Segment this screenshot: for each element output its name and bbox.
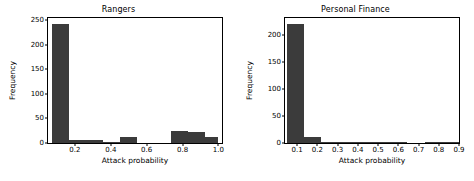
chart-panel-personal-finance: Personal Finance Frequency 050100150200 … (237, 0, 474, 181)
x-tick-mark (418, 143, 419, 146)
y-tick-mark (282, 35, 285, 36)
chart-panel-rangers: Rangers Frequency 050100150200250 0.20.4… (0, 0, 237, 181)
x-tick-mark (398, 143, 399, 146)
plot-axes: 050100150200 0.10.20.30.40.50.60.70.80.9 (284, 17, 460, 144)
y-tick-mark (45, 93, 48, 94)
y-axis-label: Frequency (243, 17, 255, 144)
x-tick-mark (297, 143, 298, 146)
histogram-bar (120, 137, 137, 143)
y-tick-mark (45, 69, 48, 70)
x-tick-mark (74, 143, 75, 146)
histogram-bar (171, 131, 188, 143)
y-tick-mark (45, 118, 48, 119)
x-tick-mark (357, 143, 358, 146)
y-axis-label-text: Frequency (245, 61, 254, 100)
histogram-bar (188, 132, 205, 143)
x-tick-mark (317, 143, 318, 146)
chart-title: Rangers (0, 5, 237, 15)
y-axis-label-text: Frequency (8, 61, 17, 100)
y-tick-mark (45, 20, 48, 21)
y-tick-mark (282, 116, 285, 117)
figure: Rangers Frequency 050100150200250 0.20.4… (0, 0, 474, 181)
y-tick-mark (45, 143, 48, 144)
histogram-bar (287, 24, 304, 143)
x-tick-mark (337, 143, 338, 146)
plot-area (48, 18, 222, 143)
y-tick-mark (282, 143, 285, 144)
x-tick-mark (182, 143, 183, 146)
y-tick-mark (282, 89, 285, 90)
y-tick-mark (282, 62, 285, 63)
x-tick-mark (459, 143, 460, 146)
plot-area (285, 18, 459, 143)
x-tick-mark (146, 143, 147, 146)
x-tick-mark (110, 143, 111, 146)
x-tick-mark (378, 143, 379, 146)
y-tick-mark (45, 44, 48, 45)
plot-axes: 050100150200250 0.20.40.60.81.0 (47, 17, 223, 144)
y-axis-label: Frequency (6, 17, 18, 144)
x-axis-label: Attack probability (47, 156, 223, 165)
histogram-bar (52, 24, 69, 143)
histogram-bar (86, 140, 103, 143)
x-tick-mark (218, 143, 219, 146)
chart-title: Personal Finance (237, 5, 474, 15)
x-tick-mark (438, 143, 439, 146)
x-axis-label: Attack probability (284, 156, 460, 165)
